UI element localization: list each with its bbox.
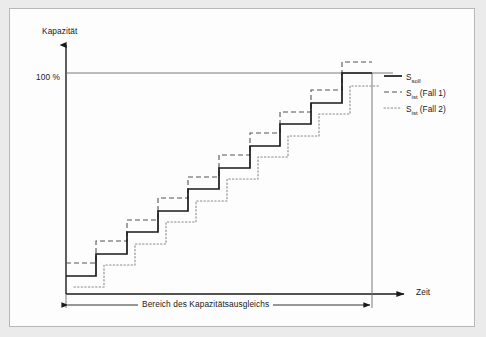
range-annotation-label: Bereich des Kapazitätsausgleichs (138, 299, 273, 309)
series-s-ist-fall2 (74, 86, 380, 287)
x-axis-label: Zeit (416, 287, 430, 297)
series-s-soll (66, 73, 372, 276)
legend-label-suffix-2: (Fall 2) (418, 104, 446, 114)
legend-label-suffix-1: (Fall 1) (418, 88, 446, 98)
capacity-step-chart (10, 9, 476, 328)
legend-label-sub-0: soll (412, 78, 421, 84)
legend-item-s-soll: Ssoll (406, 72, 421, 84)
legend-item-s-ist-fall1: Sist (Fall 1) (406, 88, 446, 100)
series-s-ist-fall1 (66, 62, 372, 263)
legend-item-s-ist-fall2: Sist (Fall 2) (406, 104, 446, 116)
figure-panel: Kapazität 100 % Zeit Bereich des Kapazit… (9, 8, 475, 327)
y-axis-label: Kapazität (42, 26, 78, 36)
y-axis-tick-100: 100 % (36, 72, 60, 82)
